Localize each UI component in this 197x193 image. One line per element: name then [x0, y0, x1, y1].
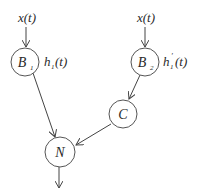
svg-text:h: h [44, 54, 51, 69]
input-label-b1: x(t) [17, 10, 36, 25]
svg-text:1: 1 [51, 63, 55, 71]
node-c: C [109, 100, 137, 128]
side-label-b1: h 1 (t) [44, 54, 67, 71]
node-n: N [45, 137, 75, 167]
node-b2: B 2 [131, 48, 159, 76]
node-b1-subscript: 1 [30, 64, 34, 72]
node-c-label: C [118, 107, 128, 122]
node-b1-label: B [18, 55, 27, 70]
node-b1: B 1 [11, 48, 39, 76]
node-n-label: N [54, 145, 65, 160]
side-label-b2: h 1 ′ (t) [163, 52, 187, 71]
svg-text:1: 1 [170, 63, 174, 71]
svg-text:(t): (t) [55, 54, 67, 69]
node-b2-subscript: 2 [150, 64, 154, 72]
svg-text:′: ′ [171, 52, 173, 61]
edge-b1-to-n [33, 73, 55, 137]
edge-b2-to-c [129, 75, 140, 99]
node-b2-label: B [138, 55, 147, 70]
svg-text:(t): (t) [175, 54, 187, 69]
input-label-b2: x(t) [136, 10, 155, 25]
svg-text:h: h [163, 54, 170, 69]
diagram-canvas: x(t) x(t) B 1 h 1 (t) B 2 h 1 ′ (t) C N [0, 0, 197, 193]
edge-c-to-n [76, 124, 111, 145]
